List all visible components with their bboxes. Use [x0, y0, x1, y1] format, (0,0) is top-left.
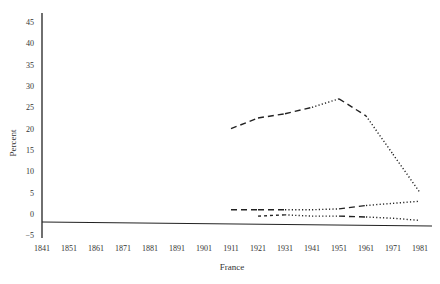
series-segment [393, 218, 420, 220]
x-tick-label: 1881 [142, 244, 158, 253]
x-tick-label: 1981 [412, 244, 428, 253]
y-axis-title: Percent [8, 129, 18, 156]
x-tick-label: 1861 [88, 244, 104, 253]
series-segment [393, 201, 420, 203]
y-tick-label: 35 [26, 61, 34, 70]
series-segment [231, 118, 258, 129]
y-tick-label: 20 [26, 125, 34, 134]
series-lines [231, 99, 420, 221]
series-segment [393, 154, 420, 192]
x-tick-label: 1921 [250, 244, 266, 253]
series-segment [285, 215, 312, 216]
y-tick-label: −5 [25, 231, 34, 240]
x-tick-label: 1941 [304, 244, 320, 253]
series-segment [258, 215, 285, 216]
x-tick-label: 1971 [385, 244, 401, 253]
y-tick-label: 30 [26, 82, 34, 91]
x-tick-label: 1841 [34, 244, 50, 253]
x-tick-label: 1931 [277, 244, 293, 253]
series-segment [366, 116, 393, 154]
y-tick-label: 0 [30, 210, 34, 219]
x-tick-label: 1871 [115, 244, 131, 253]
y-tick-label: 40 [26, 39, 34, 48]
series-segment [258, 114, 285, 118]
series-segment [312, 99, 339, 108]
x-tick-label: 1901 [196, 244, 212, 253]
y-tick-label: 10 [26, 167, 34, 176]
x-tick-label: 1961 [358, 244, 374, 253]
series-segment [366, 203, 393, 205]
y-tick-label: 25 [26, 103, 34, 112]
series-segment [339, 216, 366, 217]
y-axis: 454035302520151050−5 [25, 13, 42, 240]
x-tick-label: 1851 [61, 244, 77, 253]
y-tick-label: 15 [26, 146, 34, 155]
series-segment [366, 217, 393, 218]
y-tick-label: 5 [30, 189, 34, 198]
x-axis: 1841185118611871188118911901191119211931… [34, 222, 432, 253]
x-tick-label: 1951 [331, 244, 347, 253]
x-tick-label: 1911 [223, 244, 239, 253]
series-segment [312, 209, 339, 210]
series-segment [339, 205, 366, 208]
x-tick-label: 1891 [169, 244, 185, 253]
y-tick-label: 45 [26, 18, 34, 27]
x-axis-title: France [220, 262, 245, 272]
line-chart: 454035302520151050−5 1841185118611871188… [0, 0, 440, 284]
series-segment [339, 99, 366, 116]
series-segment [285, 107, 312, 113]
